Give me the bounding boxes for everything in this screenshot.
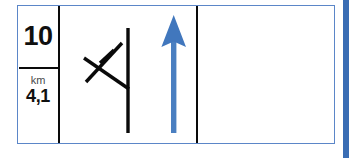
straight-ahead-arrow-icon — [152, 6, 196, 145]
junction-cell — [60, 6, 197, 143]
distance-box: km 4,1 — [18, 70, 58, 120]
distance-cell: 10 km 4,1 — [18, 6, 58, 143]
distance-value: 4,1 — [26, 86, 50, 107]
right-edge-blue-bar — [343, 0, 349, 158]
route-number: 10 — [23, 23, 52, 50]
distance-unit-label: km — [31, 74, 46, 86]
crossed-out-side-road-junction-icon — [62, 6, 162, 145]
route-number-box: 10 — [18, 6, 58, 67]
empty-cell — [198, 6, 334, 143]
road-direction-sign: 10 km 4,1 — [17, 5, 335, 144]
